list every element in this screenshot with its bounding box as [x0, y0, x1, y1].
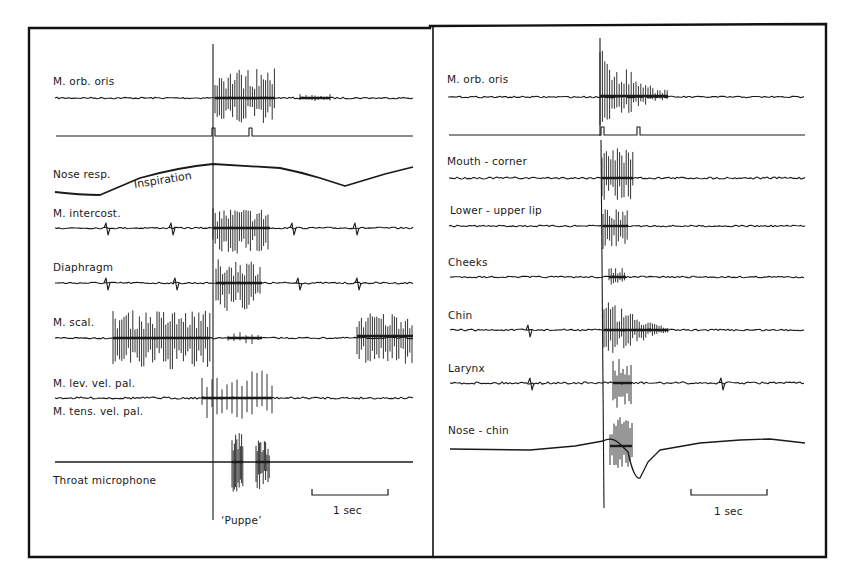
burst-mouth-corner [602, 148, 633, 199]
ecg-spike [169, 223, 175, 235]
scale-bar-left [312, 489, 388, 495]
burst-m-scal-post [357, 314, 413, 364]
label-m-scal: M. scal. [53, 316, 94, 328]
burst-m-diaphragm [216, 259, 262, 311]
ecg-spike [526, 325, 532, 337]
burst-m-intercost [213, 208, 270, 253]
burst-m-scal-pre [113, 310, 210, 369]
scale-bar-right [691, 489, 767, 495]
burst-nose-chin [610, 417, 632, 468]
burst-m-orb-oris-left [215, 69, 275, 123]
burst-throat-syllable-2 [256, 441, 270, 490]
scale-label-left: 1 sec [333, 504, 362, 516]
ecg-spike [173, 278, 179, 290]
burst-throat-syllable-1 [232, 433, 243, 491]
label-nose-resp: Nose resp. [53, 168, 111, 180]
label-nose-chin: Nose - chin [448, 424, 509, 436]
label-chin: Chin [448, 309, 472, 321]
label-cheeks: Cheeks [448, 256, 488, 268]
burst-lower-upper-lip [603, 209, 628, 249]
burst-m-orb-oris-right [600, 51, 668, 125]
label-m-tens-vel-pal: M. tens. vel. pal. [53, 405, 143, 417]
trace-marker-pulses-left [56, 128, 413, 136]
label-diaphragm: Diaphragm [53, 261, 113, 273]
burst-m-orb-oris-left-tail [300, 94, 330, 101]
label-m-intercost: M. intercost. [53, 207, 121, 219]
utterance-marker-lines [213, 38, 604, 520]
label-larynx: Larynx [448, 362, 485, 374]
label-throat-microphone: Throat microphone [53, 474, 156, 486]
label-m-orb-oris-left: M. orb. oris [53, 75, 114, 87]
burst-cheeks [609, 268, 626, 284]
label-m-lev-vel-pal: M. lev. vel. pal. [53, 377, 135, 389]
ecg-spike [355, 278, 361, 290]
trace-marker-pulses-right [449, 127, 805, 135]
scale-label-right: 1 sec [714, 505, 743, 517]
burst-m-scal-mid [228, 332, 262, 344]
ecg-spike [104, 278, 110, 290]
utterance-label-puppe: ‘Puppe’ [221, 514, 262, 526]
burst-chin [604, 303, 668, 353]
label-lower-upper-lip: Lower - upper lip [450, 204, 542, 216]
burst-larynx [613, 359, 632, 408]
emg-figure [0, 0, 847, 584]
label-mouth-corner: Mouth - corner [447, 155, 527, 167]
trace-cheeks [450, 276, 804, 278]
label-m-orb-oris-right: M. orb. oris [447, 73, 508, 85]
